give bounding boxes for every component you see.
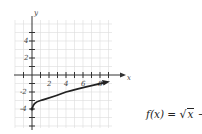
equation-radicand: x: [187, 108, 195, 120]
radical-icon: √: [180, 108, 187, 121]
y-tick-label: 4: [23, 37, 28, 45]
equation-equals: =: [167, 108, 176, 120]
equation-lhs: f(x): [146, 108, 164, 120]
y-tick-label: -4: [20, 105, 27, 113]
y-tick-label: 2: [23, 54, 29, 62]
x-tick-label: 2: [46, 80, 52, 88]
x-tick-label: 4: [63, 80, 68, 88]
x-axis-arrow-icon: [120, 73, 126, 78]
x-axis-label: x: [127, 74, 131, 82]
y-axis-label: y: [33, 9, 39, 17]
function-equation: f(x) = √x − 4: [146, 108, 202, 121]
equation-tail: − 4: [198, 108, 202, 120]
start-point: [30, 107, 33, 110]
grid: [15, 20, 112, 128]
curve-arrow-icon: [102, 80, 110, 86]
y-tick-label: -2: [20, 88, 27, 96]
